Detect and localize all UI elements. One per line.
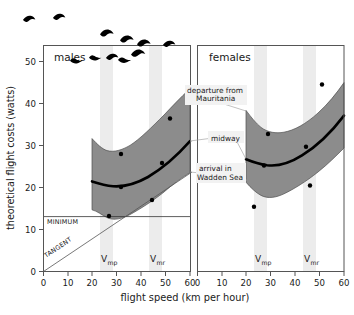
data-point bbox=[119, 152, 123, 156]
callout-arrival-line2: Wadden Sea bbox=[197, 173, 243, 182]
data-point bbox=[304, 145, 308, 149]
data-point bbox=[150, 198, 154, 202]
x-tick-females-60: 60 bbox=[339, 278, 350, 288]
callout-departure-line2: Mauritania bbox=[196, 94, 235, 103]
y-tick-10: 10 bbox=[25, 225, 36, 235]
x-axis-label: flight speed (km per hour) bbox=[121, 292, 250, 303]
panel-title-females: females bbox=[209, 51, 251, 63]
callout-midway-line1: midway bbox=[211, 134, 241, 143]
x-tick-females-20: 20 bbox=[241, 278, 252, 288]
data-point bbox=[119, 185, 123, 189]
x-tick-females-0: 0 bbox=[195, 278, 200, 288]
x-tick-males-0: 0 bbox=[41, 278, 46, 288]
data-point bbox=[308, 183, 312, 187]
chart-svg: males V mp V mr MINIMUM TANGENT females bbox=[0, 0, 354, 315]
data-point bbox=[262, 163, 266, 167]
x-tick-females-50: 50 bbox=[314, 278, 325, 288]
data-point bbox=[320, 82, 324, 86]
data-point bbox=[107, 214, 111, 218]
x-tick-females-10: 10 bbox=[217, 278, 228, 288]
y-axis-label: theoretical flight costs (watts) bbox=[5, 86, 16, 230]
y-tick-50: 50 bbox=[25, 57, 36, 67]
data-point bbox=[252, 205, 256, 209]
x-tick-females-30: 30 bbox=[265, 278, 276, 288]
x-tick-females-40: 40 bbox=[290, 278, 301, 288]
vmr-sublabel-females: mr bbox=[311, 259, 320, 266]
data-point bbox=[160, 161, 164, 165]
y-tick-30: 30 bbox=[25, 141, 36, 151]
vmp-sublabel-females: mp bbox=[262, 259, 272, 267]
x-tick-males-20: 20 bbox=[87, 278, 98, 288]
y-tick-20: 20 bbox=[25, 183, 36, 193]
y-tick-0: 0 bbox=[31, 267, 36, 277]
x-tick-males-50: 50 bbox=[160, 278, 171, 288]
y-tick-40: 40 bbox=[25, 99, 36, 109]
vmp-sublabel-males: mp bbox=[108, 259, 118, 267]
flight-cost-figure: males V mp V mr MINIMUM TANGENT females bbox=[0, 0, 354, 315]
data-point bbox=[168, 116, 172, 120]
callout-arrival-line1: arrival in bbox=[199, 164, 232, 173]
x-tick-males-10: 10 bbox=[63, 278, 74, 288]
data-point bbox=[266, 132, 270, 136]
vmr-sublabel-males: mr bbox=[157, 259, 166, 266]
minimum-caption: MINIMUM bbox=[47, 218, 78, 226]
x-tick-males-40: 40 bbox=[136, 278, 147, 288]
x-tick-males-30: 30 bbox=[111, 278, 122, 288]
